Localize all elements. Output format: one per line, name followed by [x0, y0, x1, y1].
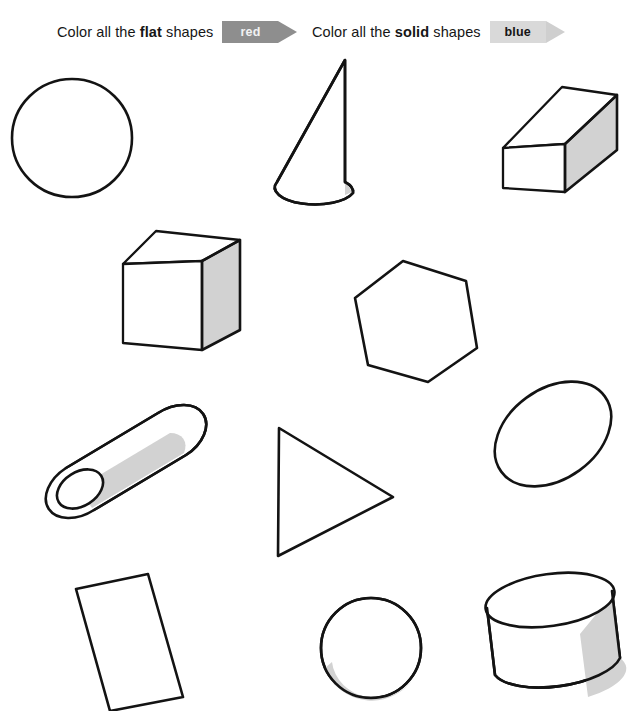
- worksheet-page: Color all the flat shapes red Color all …: [0, 0, 631, 711]
- shape-sphere[interactable]: [321, 598, 421, 701]
- shape-cube[interactable]: [123, 231, 240, 350]
- shape-cylinder-drum[interactable]: [482, 565, 626, 697]
- shape-hexagon[interactable]: [355, 261, 477, 382]
- shape-circle[interactable]: [12, 79, 132, 197]
- shapes-svg: [0, 0, 631, 711]
- shape-field: [0, 0, 631, 711]
- shape-rectangle[interactable]: [76, 574, 183, 711]
- shape-cylinder-tilted[interactable]: [46, 405, 206, 518]
- shape-oval[interactable]: [475, 360, 631, 508]
- shape-rectangular-prism[interactable]: [503, 87, 617, 192]
- shape-triangle[interactable]: [278, 428, 393, 556]
- shape-cone[interactable]: [275, 60, 353, 204]
